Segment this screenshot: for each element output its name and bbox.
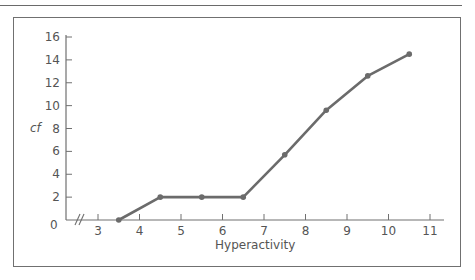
x-tick-label: 7	[260, 224, 268, 238]
data-point	[365, 73, 371, 79]
x-tick-label: 10	[381, 224, 396, 238]
x-tick-label: 11	[422, 224, 437, 238]
x-tick-label: 4	[136, 224, 144, 238]
x-axis-title: Hyperactivity	[215, 238, 295, 252]
x-tick-label: 5	[177, 224, 185, 238]
data-point	[240, 194, 246, 200]
data-point	[199, 194, 205, 200]
y-tick-label: 8	[52, 122, 60, 136]
data-point	[406, 51, 412, 57]
y-tick-label: 16	[45, 30, 60, 44]
data-line	[119, 54, 410, 220]
plot-area	[116, 51, 412, 222]
y-tick-label: 4	[52, 167, 60, 181]
data-point	[157, 194, 163, 200]
y-tick-label: 6	[52, 144, 60, 158]
y-tick-label: 2	[52, 190, 60, 204]
y-tick-label: 12	[45, 76, 60, 90]
data-point	[116, 217, 122, 223]
x-tick-label: 3	[94, 224, 102, 238]
data-point	[323, 107, 329, 113]
axes: 24681012141634567891011	[45, 30, 444, 238]
y-tick-label: 10	[45, 99, 60, 113]
origin-label: 0	[50, 218, 58, 232]
x-tick-label: 9	[343, 224, 351, 238]
x-tick-label: 6	[219, 224, 227, 238]
y-axis-title: cf	[30, 121, 43, 135]
y-tick-label: 14	[45, 53, 60, 67]
x-tick-label: 8	[302, 224, 310, 238]
line-chart: 24681012141634567891011 cf Hyperactivity…	[0, 0, 475, 280]
data-point	[282, 152, 288, 158]
